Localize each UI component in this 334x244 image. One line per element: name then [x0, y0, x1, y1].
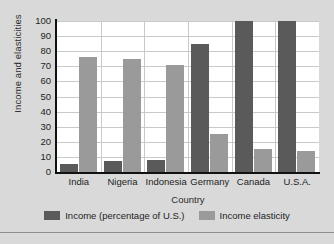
x-tick-label: India: [57, 176, 101, 187]
gridline-vertical: [101, 21, 102, 172]
x-axis-title: Country: [57, 194, 319, 205]
y-tick-label: 60: [27, 77, 51, 87]
legend-item-income: Income (percentage of U.S.): [44, 210, 184, 221]
y-tick-label: 50: [27, 92, 51, 102]
gridline-vertical: [188, 21, 189, 172]
legend-swatch-elasticity: [199, 211, 215, 220]
bar-income: [147, 160, 165, 172]
y-tick-label: 20: [27, 137, 51, 147]
y-tick-label: 100: [27, 16, 51, 26]
y-tick-label: 90: [27, 31, 51, 41]
chart-legend: Income (percentage of U.S.) Income elast…: [0, 210, 334, 221]
bar-group: [191, 21, 229, 172]
y-axis-line: [55, 19, 57, 174]
y-tick-label: 30: [27, 122, 51, 132]
bar-group: [278, 21, 316, 172]
bar-income-elasticity: [123, 59, 141, 172]
legend-label-income: Income (percentage of U.S.): [65, 210, 184, 221]
bar-group: [60, 21, 98, 172]
gridline-vertical: [232, 21, 233, 172]
y-tick-label: 0: [27, 167, 51, 177]
bar-group: [104, 21, 142, 172]
legend-label-elasticity: Income elasticity: [220, 210, 290, 221]
bar-group: [147, 21, 185, 172]
x-tick-label: U.S.A.: [275, 176, 319, 187]
bar-income: [104, 161, 122, 172]
bar-group: [235, 21, 273, 172]
bar-income-elasticity: [297, 151, 315, 172]
x-tick-label: Canada: [232, 176, 276, 187]
bar-income: [235, 21, 253, 172]
x-axis-tick-labels: IndiaNigeriaIndonesiaGermanyCanadaU.S.A.: [57, 176, 319, 190]
bar-income-elasticity: [254, 149, 272, 172]
bar-income-elasticity: [79, 57, 97, 172]
bar-income-elasticity: [210, 134, 228, 172]
chart-figure: Income and elasticities 0102030405060708…: [0, 0, 334, 244]
gridline-vertical: [275, 21, 276, 172]
plot-area: [57, 21, 319, 172]
legend-item-elasticity: Income elasticity: [199, 210, 290, 221]
bar-income: [191, 44, 209, 172]
y-tick-label: 40: [27, 107, 51, 117]
y-tick-label: 10: [27, 152, 51, 162]
x-tick-label: Indonesia: [144, 176, 188, 187]
legend-swatch-income: [44, 211, 60, 220]
y-axis-tick-labels: 0102030405060708090100: [25, 21, 51, 172]
bar-income: [278, 21, 296, 172]
gridline-vertical: [144, 21, 145, 172]
x-axis-line: [55, 172, 320, 174]
bar-income: [60, 164, 78, 172]
y-axis-title: Income and elasticities: [12, 0, 23, 139]
bottom-divider: [0, 232, 334, 233]
x-tick-label: Nigeria: [101, 176, 145, 187]
y-tick-label: 70: [27, 62, 51, 72]
y-tick-label: 80: [27, 46, 51, 56]
x-tick-label: Germany: [188, 176, 232, 187]
bar-income-elasticity: [166, 65, 184, 172]
